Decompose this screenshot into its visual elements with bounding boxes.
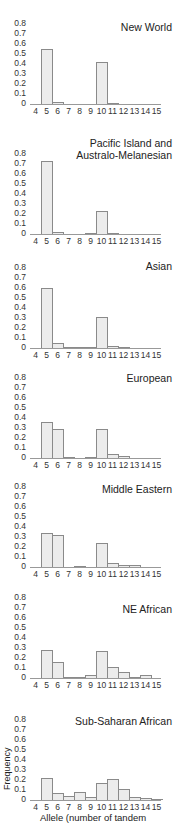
- x-axis-line: [30, 348, 161, 349]
- bar-allele-6: [52, 535, 64, 567]
- x-axis-line: [30, 234, 161, 235]
- bar-allele-6: [52, 232, 64, 234]
- x-axis-line: [30, 567, 161, 568]
- bar-allele-7: [63, 457, 75, 458]
- y-tick-label: 0.6: [4, 735, 26, 744]
- x-tick-label: 5: [41, 803, 52, 812]
- x-tick-label: 5: [41, 461, 52, 470]
- bar-allele-5: [41, 288, 53, 348]
- x-tick-label: 14: [140, 461, 151, 470]
- y-tick-label: 0.5: [4, 49, 26, 58]
- x-tick-label: 13: [129, 570, 140, 579]
- x-tick-label: 4: [30, 237, 41, 246]
- x-tick-label: 8: [74, 570, 85, 579]
- x-tick-label: 8: [74, 237, 85, 246]
- x-tick-label: 12: [118, 681, 129, 690]
- y-tick-label: 0.6: [4, 283, 26, 292]
- x-tick-label: 7: [63, 351, 74, 360]
- bar-allele-5: [41, 49, 53, 104]
- x-tick-label: 13: [129, 351, 140, 360]
- y-tick-label: 0.4: [4, 59, 26, 68]
- x-tick-label: 9: [85, 107, 96, 116]
- x-tick-label: 15: [151, 803, 162, 812]
- x-tick-label: 6: [52, 461, 63, 470]
- y-tick-label: 0.3: [4, 643, 26, 652]
- bar-allele-13: [129, 565, 141, 567]
- y-tick-label: 0.1: [4, 785, 26, 794]
- x-tick-label: 10: [96, 461, 107, 470]
- x-tick-label: 15: [151, 107, 162, 116]
- x-tick-label: 11: [107, 570, 118, 579]
- y-tick-label: 0.5: [4, 512, 26, 521]
- x-tick-label: 11: [107, 237, 118, 246]
- y-tick-label: 0.1: [4, 552, 26, 561]
- x-tick-label: 5: [41, 570, 52, 579]
- y-tick-label: 0.5: [4, 623, 26, 632]
- y-tick-label: 0.4: [4, 189, 26, 198]
- y-tick-label: 0.6: [4, 613, 26, 622]
- y-tick-label: 0: [4, 673, 26, 682]
- y-tick-label: 0.3: [4, 313, 26, 322]
- bar-allele-6: [52, 429, 64, 458]
- panel-title: European: [126, 372, 172, 384]
- x-tick-label: 14: [140, 237, 151, 246]
- x-tick-label: 15: [151, 570, 162, 579]
- x-tick-label: 5: [41, 681, 52, 690]
- y-tick-label: 0.4: [4, 755, 26, 764]
- y-tick-label: 0.5: [4, 293, 26, 302]
- x-tick-label: 10: [96, 237, 107, 246]
- x-tick-label: 11: [107, 803, 118, 812]
- y-tick-label: 0: [4, 99, 26, 108]
- x-tick-label: 14: [140, 351, 151, 360]
- x-axis-line: [30, 458, 161, 459]
- x-tick-label: 13: [129, 461, 140, 470]
- y-tick-label: 0.5: [4, 403, 26, 412]
- x-axis-line: [30, 678, 161, 679]
- x-axis-label: Allele (number of tandem: [40, 812, 146, 823]
- y-tick-label: 0.1: [4, 333, 26, 342]
- x-tick-label: 11: [107, 107, 118, 116]
- y-tick-label: 0.7: [4, 492, 26, 501]
- x-tick-label: 13: [129, 237, 140, 246]
- x-tick-label: 14: [140, 803, 151, 812]
- bar-allele-10: [96, 211, 108, 234]
- x-tick-label: 15: [151, 351, 162, 360]
- y-tick-label: 0.8: [4, 715, 26, 724]
- y-tick-label: 0.4: [4, 303, 26, 312]
- bar-allele-11: [107, 233, 119, 234]
- bar-allele-8: [74, 566, 86, 567]
- x-axis-line: [30, 800, 161, 801]
- x-tick-label: 12: [118, 803, 129, 812]
- x-tick-label: 9: [85, 681, 96, 690]
- y-tick-label: 0.8: [4, 373, 26, 382]
- bar-allele-11: [107, 103, 119, 104]
- x-tick-label: 7: [63, 681, 74, 690]
- y-tick-label: 0.6: [4, 502, 26, 511]
- x-tick-label: 14: [140, 570, 151, 579]
- x-tick-label: 9: [85, 237, 96, 246]
- panel-title-line1: Pacific Island and: [76, 137, 172, 149]
- y-tick-label: 0.1: [4, 663, 26, 672]
- x-tick-label: 10: [96, 681, 107, 690]
- x-tick-label: 15: [151, 461, 162, 470]
- x-tick-label: 4: [30, 351, 41, 360]
- x-tick-label: 6: [52, 237, 63, 246]
- y-tick-label: 0.3: [4, 199, 26, 208]
- x-tick-label: 7: [63, 803, 74, 812]
- y-tick-label: 0.7: [4, 383, 26, 392]
- x-tick-label: 9: [85, 461, 96, 470]
- x-tick-label: 4: [30, 681, 41, 690]
- y-tick-label: 0.6: [4, 169, 26, 178]
- bar-allele-12: [118, 456, 130, 458]
- x-tick-label: 5: [41, 351, 52, 360]
- y-tick-label: 0.1: [4, 219, 26, 228]
- x-tick-label: 8: [74, 681, 85, 690]
- x-tick-label: 5: [41, 107, 52, 116]
- x-tick-label: 14: [140, 107, 151, 116]
- bar-allele-10: [96, 62, 108, 104]
- x-tick-label: 8: [74, 351, 85, 360]
- y-tick-label: 0.4: [4, 633, 26, 642]
- x-tick-label: 8: [74, 461, 85, 470]
- x-tick-label: 11: [107, 681, 118, 690]
- x-tick-label: 12: [118, 237, 129, 246]
